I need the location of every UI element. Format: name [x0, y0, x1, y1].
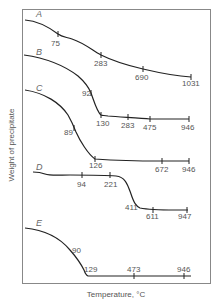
curve-b-tick-2: 130 [96, 119, 110, 128]
curve-a-tick-4: 1031 [182, 79, 200, 88]
curve-c-label: C [36, 83, 43, 93]
curve-d-tick-3: 411 [125, 203, 138, 212]
curve-c-tick-4: 946 [182, 165, 196, 174]
curve-e-tick-2: 129 [84, 265, 98, 274]
curve-c-tick-1: 89 [64, 128, 73, 137]
curve-d-tick-1: 94 [77, 180, 86, 189]
curve-d-label: D [36, 162, 43, 172]
curve-e-tick-4: 946 [177, 265, 191, 274]
curve-e-tick-3: 473 [127, 265, 141, 274]
curve-c: C 89 126 672 946 [25, 83, 196, 174]
curve-c-tick-2: 126 [89, 161, 103, 170]
curve-a-tick-3: 690 [135, 73, 149, 82]
curve-a-tick-2: 283 [94, 59, 108, 68]
curve-c-tick-3: 672 [155, 165, 169, 174]
curve-d-tick-2: 221 [104, 180, 118, 189]
curve-e-tick-1: 90 [72, 246, 81, 255]
thermogravimetric-chart: A 75 283 690 1031 B 92 130 283 475 946 C… [0, 0, 213, 304]
curve-a-tick-1: 75 [51, 39, 60, 48]
curve-b: B 92 130 283 475 946 [24, 47, 195, 132]
curve-e: E 90 129 473 946 [25, 218, 191, 279]
curve-a: A 75 283 690 1031 [25, 9, 200, 88]
curve-e-label: E [36, 218, 43, 228]
curve-d-tick-5: 947 [178, 212, 192, 221]
curve-b-label: B [36, 47, 42, 57]
curve-b-tick-3: 283 [121, 121, 135, 130]
curve-b-tick-5: 946 [181, 123, 195, 132]
curve-d-tick-4: 611 [146, 212, 159, 221]
curve-b-tick-4: 475 [143, 123, 157, 132]
y-axis-label: Weight of precipitate [7, 108, 16, 181]
curve-a-label: A [35, 9, 42, 19]
curve-b-tick-1: 92 [82, 89, 91, 98]
plot-frame [23, 10, 211, 284]
x-axis-label: Temperature, °C [87, 290, 146, 299]
